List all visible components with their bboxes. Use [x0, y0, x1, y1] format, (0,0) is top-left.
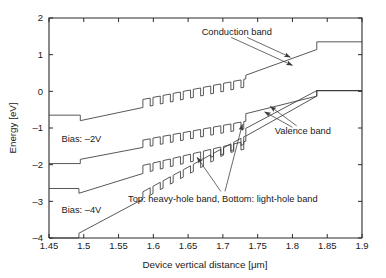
annotation-label-valence-band: Valence band — [275, 126, 331, 136]
x-tick-label: 1.5 — [77, 240, 90, 251]
band-curve — [49, 91, 362, 238]
annotation-arrow — [225, 124, 242, 191]
y-tick-label: –1 — [32, 122, 43, 133]
x-axis-title: Device vertical distance [μm] — [143, 259, 268, 270]
y-tick-label: –2 — [32, 159, 43, 170]
bias-label-bias-4v: Bias: –4V — [62, 205, 103, 215]
x-tick-label: 1.85 — [318, 240, 337, 251]
x-tick-label: 1.6 — [147, 240, 160, 251]
annotation-arrow — [197, 157, 221, 191]
y-axis-title: Energy [eV] — [7, 102, 18, 153]
x-tick-label: 1.65 — [179, 240, 198, 251]
bias-label-bias-2v: Bias: –2V — [62, 134, 103, 144]
x-tick-label: 1.7 — [216, 240, 229, 251]
annotation-arrow — [231, 37, 292, 65]
band-diagram-chart: 1.451.51.551.61.651.71.751.81.851.9 210–… — [0, 0, 386, 278]
y-tick-label: –3 — [32, 196, 43, 207]
y-tick-label: 2 — [38, 12, 43, 23]
band-curve — [49, 42, 362, 121]
band-diagram-figure: 1.451.51.551.61.651.71.751.81.851.9 210–… — [0, 0, 386, 278]
y-axis-tick-labels: 210–1–2–3–4 — [32, 12, 43, 243]
annotation-labels: Conduction bandValence bandTop: heavy-ho… — [128, 27, 331, 203]
y-tick-label: 1 — [38, 49, 43, 60]
y-tick-label: –4 — [32, 232, 43, 243]
x-tick-label: 1.75 — [248, 240, 267, 251]
x-tick-label: 1.8 — [286, 240, 299, 251]
annotation-label-hole-band-note: Top: heavy-hole band, Bottom: light-hole… — [128, 194, 318, 204]
x-tick-label: 1.9 — [355, 240, 368, 251]
x-tick-label: 1.55 — [109, 240, 128, 251]
annotation-arrows — [197, 37, 296, 191]
x-axis-tick-labels: 1.451.51.551.61.651.71.751.81.851.9 — [40, 240, 369, 251]
y-tick-label: 0 — [38, 86, 43, 97]
bias-labels: Bias: –2VBias: –4V — [62, 134, 103, 214]
annotation-label-conduction-band: Conduction band — [202, 27, 272, 37]
